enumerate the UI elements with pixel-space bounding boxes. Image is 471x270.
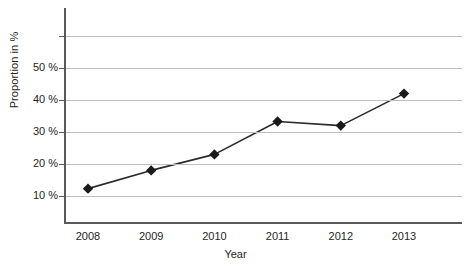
line-chart: Proportion in % 10 %20 %30 %40 %50 % 200… <box>0 0 471 270</box>
gridline <box>66 164 462 165</box>
series-line <box>88 94 404 189</box>
y-axis-tick-label: 20 % <box>16 158 58 169</box>
x-axis-tick-label: 2009 <box>121 230 181 242</box>
x-axis-title: Year <box>0 248 471 260</box>
x-axis-tick-label: 2008 <box>58 230 118 242</box>
data-point-marker[interactable] <box>146 165 156 175</box>
gridline <box>66 132 462 133</box>
y-axis-tick-mark <box>59 164 65 165</box>
y-axis-tick-mark <box>59 36 65 37</box>
data-series-layer <box>66 8 462 223</box>
x-axis-tick-label: 2010 <box>184 230 244 242</box>
y-axis-tick-mark <box>59 196 65 197</box>
plot-area <box>66 8 462 223</box>
gridline <box>66 100 462 101</box>
y-axis-tick-label: 10 % <box>16 190 58 201</box>
x-axis-tick-label: 2012 <box>311 230 371 242</box>
y-axis-tick-mark <box>59 68 65 69</box>
data-point-marker[interactable] <box>209 149 219 159</box>
x-axis-tick-label: 2013 <box>374 230 434 242</box>
gridline <box>66 196 462 197</box>
y-axis-tick-label: 30 % <box>16 126 58 137</box>
x-axis-tick-label: 2011 <box>248 230 308 242</box>
gridline <box>66 68 462 69</box>
gridline <box>66 36 462 37</box>
data-point-marker[interactable] <box>336 120 346 130</box>
x-axis-tick-labels: 200820092010201120122013 <box>0 230 471 246</box>
data-point-marker[interactable] <box>83 183 93 193</box>
y-axis-tick-label: 40 % <box>16 94 58 105</box>
data-point-marker[interactable] <box>272 116 282 126</box>
data-point-marker[interactable] <box>399 88 409 98</box>
y-axis-tick-label: 50 % <box>16 62 58 73</box>
y-axis-tick-mark <box>59 132 65 133</box>
y-axis-tick-mark <box>59 100 65 101</box>
